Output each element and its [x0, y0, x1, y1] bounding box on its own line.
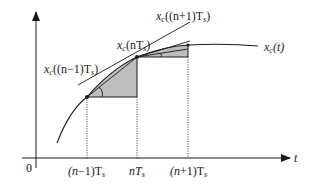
x-axis-label: t: [294, 151, 298, 165]
sample-point-next: [186, 43, 189, 46]
origin-label: 0: [26, 161, 32, 175]
sample-point-cur: [135, 55, 139, 59]
label-point-cur: xc(nTs): [116, 38, 150, 53]
tick-label-next: (n+1)Ts: [170, 164, 207, 179]
label-point-prev: xc((n−1)Ts): [43, 62, 98, 77]
label-curve: xc(t): [263, 40, 284, 55]
tick-label-prev: (n−1)Ts: [68, 164, 105, 179]
tick-label-cur: nTs: [129, 164, 145, 179]
sample-point-prev: [85, 95, 89, 99]
label-point-next: xc((n+1)Ts): [155, 9, 210, 24]
axes: [22, 12, 290, 168]
integration-diagram: 0 t (n−1)Ts nTs (n+1)Ts xc((n−1)Ts) xc(n…: [0, 0, 313, 184]
